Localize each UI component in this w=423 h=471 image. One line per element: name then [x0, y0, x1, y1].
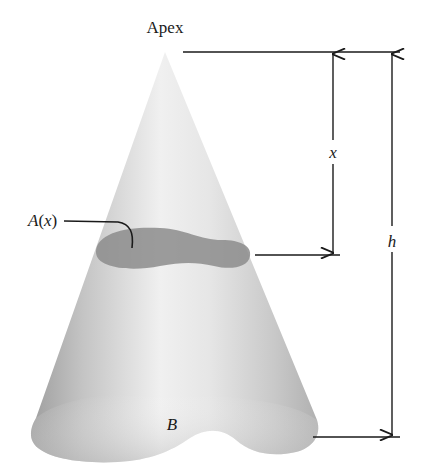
x-dimension: x [328, 54, 337, 253]
h-label: h [388, 232, 397, 251]
apex-label: Apex [147, 18, 184, 37]
x-label: x [328, 143, 337, 162]
cone-diagram: Apex A(x) x h B [0, 0, 423, 471]
base-label: B [167, 415, 178, 434]
cross-section-label: A(x) [27, 211, 57, 230]
h-dimension: h [388, 54, 397, 435]
